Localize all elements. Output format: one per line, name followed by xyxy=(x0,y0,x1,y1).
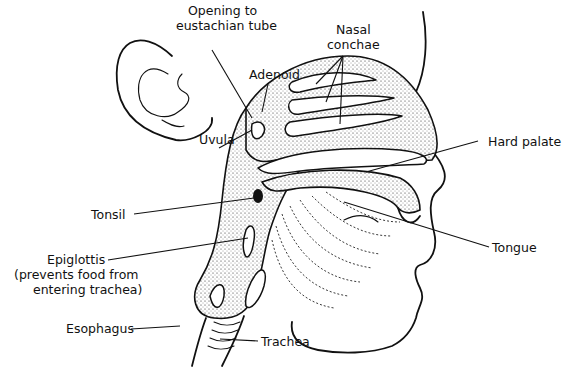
label-opening-eustachian-line2: eustachian tube xyxy=(176,18,277,33)
label-trachea: Trachea xyxy=(260,334,310,349)
trachea-rings xyxy=(192,316,244,366)
label-uvula: Uvula xyxy=(199,132,235,147)
label-adenoid: Adenoid xyxy=(249,67,300,82)
tongue-muscle-lines xyxy=(272,192,400,308)
label-opening-eustachian-line1: Opening to xyxy=(188,3,257,18)
label-esophagus: Esophagus xyxy=(66,321,134,336)
label-epiglottis-line3: entering trachea) xyxy=(33,282,142,297)
label-hard-palate: Hard palate xyxy=(488,134,562,149)
tonsil xyxy=(253,189,263,203)
label-epiglottis-line1: Epiglottis xyxy=(47,252,105,267)
label-epiglottis-line2: (prevents food from xyxy=(14,267,138,282)
uvula xyxy=(252,122,265,139)
throat-anatomy-diagram: Opening to eustachian tube Nasal conchae… xyxy=(0,0,563,369)
label-nasal-conchae-line1: Nasal xyxy=(336,22,371,37)
ear xyxy=(117,40,212,140)
label-tongue: Tongue xyxy=(491,240,537,255)
label-nasal-conchae-line2: conchae xyxy=(327,37,380,52)
label-tonsil: Tonsil xyxy=(90,207,126,222)
